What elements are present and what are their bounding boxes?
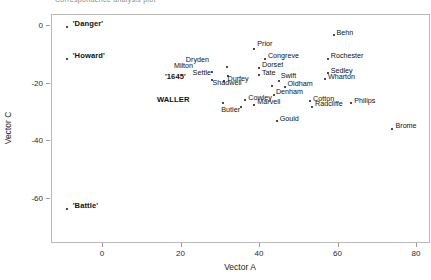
data-point [273, 94, 275, 96]
y-tick-label: 0 [39, 21, 43, 30]
data-point-label: Behn [337, 29, 354, 36]
x-tick-label: 40 [255, 249, 264, 258]
x-tick-mark [102, 243, 103, 247]
y-tick-mark [46, 83, 50, 84]
x-tick-mark [259, 243, 260, 247]
data-point-label: Oldham [288, 80, 313, 87]
x-tick-label: 0 [100, 249, 104, 258]
plot-frame [51, 14, 430, 243]
data-point [258, 67, 260, 69]
data-point-label: Gould [280, 115, 299, 122]
x-tick-mark [181, 243, 182, 247]
y-tick-label: -60 [31, 193, 43, 202]
data-point-label: '1645' [165, 73, 186, 81]
data-point-label: 'Battle' [73, 202, 99, 210]
data-point [66, 26, 68, 28]
data-point-label: 'Howard' [73, 52, 105, 60]
data-point [327, 58, 329, 60]
data-point-label: Brome [395, 122, 416, 129]
data-point [66, 58, 68, 60]
data-point-label: Dryden [186, 56, 209, 63]
x-tick-label: 60 [333, 249, 342, 258]
data-point-label: 'Danger' [73, 20, 104, 28]
data-point-label: Rochester [331, 52, 364, 59]
data-point-label: Congreve [268, 52, 299, 59]
data-point [324, 78, 326, 80]
data-point-label: Radcliffe [315, 100, 343, 107]
y-tick-mark [46, 140, 50, 141]
data-point-label: Prior [257, 40, 272, 47]
data-point [258, 74, 260, 76]
data-point-label: Denham [276, 88, 303, 95]
data-point [226, 66, 228, 68]
data-point-label: Butler [221, 106, 240, 113]
figure-caption-clipped: Correspondence analysis plot [55, 0, 205, 4]
x-tick-label: 80 [412, 249, 421, 258]
data-point [333, 34, 335, 36]
data-point [311, 106, 313, 108]
y-tick-mark [46, 198, 50, 199]
data-point [271, 85, 273, 87]
x-tick-label: 20 [176, 249, 185, 258]
y-tick-label: -20 [31, 78, 43, 87]
data-point-label: WALLER [157, 96, 190, 104]
data-point-label: Tate [262, 69, 276, 76]
x-tick-mark [338, 243, 339, 247]
data-point-label: Marvell [257, 98, 280, 105]
data-point-label: Wharton [328, 73, 355, 80]
x-axis-title: Vector A [224, 262, 256, 272]
data-point [222, 102, 224, 104]
y-axis-title: Vector C [3, 112, 13, 145]
y-tick-label: -40 [31, 136, 43, 145]
y-tick-mark [46, 25, 50, 26]
data-point-label: Settle [193, 69, 211, 76]
scatter-plot-figure: Correspondence analysis plot 0204060800-… [0, 0, 431, 280]
data-point-label: Shadwell [213, 79, 242, 86]
x-tick-mark [416, 243, 417, 247]
data-point-label: Swift [281, 72, 297, 79]
data-point-label: Philips [354, 97, 375, 104]
